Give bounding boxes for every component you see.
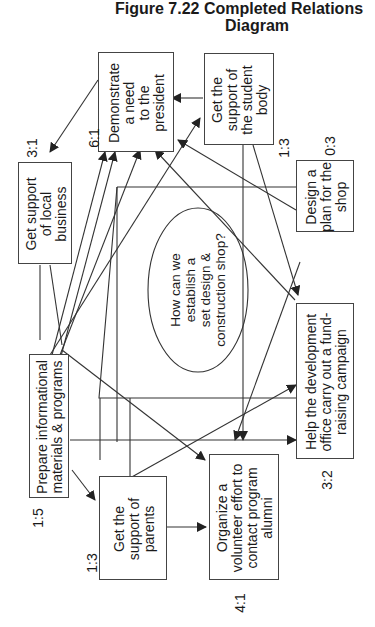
node-informational-ratio: 1:5 bbox=[30, 508, 46, 527]
node-local-business-label: Get support of local business bbox=[19, 163, 73, 265]
node-demonstrate: Demonstrate a need to the president bbox=[98, 52, 174, 152]
node-design-plan-ratio: 0:3 bbox=[322, 136, 338, 155]
node-informational: Prepare informational materials & progra… bbox=[29, 354, 69, 498]
node-design-plan-label: Design a plan for the shop bbox=[297, 161, 355, 233]
node-student-body-label: Get the support of the student body bbox=[205, 54, 275, 146]
node-fundraising: Help the development office carry out a … bbox=[296, 303, 354, 459]
node-fundraising-label: Help the development office carry out a … bbox=[297, 304, 355, 460]
node-student-body-ratio: 1:3 bbox=[276, 138, 292, 157]
node-demonstrate-ratio: 6:1 bbox=[86, 128, 102, 147]
node-student-body: Get the support of the student body bbox=[204, 53, 274, 145]
node-volunteer: Organize a volunteer effort to contact p… bbox=[209, 454, 279, 580]
node-design-plan: Design a plan for the shop bbox=[296, 160, 354, 232]
node-parents-label: Get the support of parents bbox=[100, 477, 168, 581]
node-parents-ratio: 1:3 bbox=[84, 553, 100, 572]
node-volunteer-label: Organize a volunteer effort to contact p… bbox=[210, 455, 280, 581]
node-local-business-ratio: 3:1 bbox=[24, 138, 40, 157]
node-fundraising-ratio: 3:2 bbox=[319, 470, 335, 489]
central-issue-label: How can we establish a set design & cons… bbox=[166, 230, 230, 350]
node-informational-label: Prepare informational materials & progra… bbox=[30, 355, 70, 499]
node-local-business: Get support of local business bbox=[18, 162, 72, 264]
node-volunteer-ratio: 4:1 bbox=[232, 593, 248, 612]
node-parents: Get the support of parents bbox=[99, 476, 167, 580]
node-demonstrate-label: Demonstrate a need to the president bbox=[99, 53, 175, 153]
